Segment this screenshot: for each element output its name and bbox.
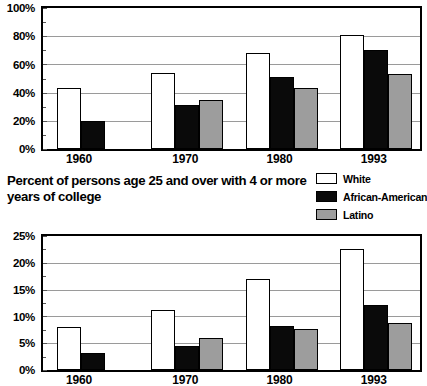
- x-tick-label: 1960: [66, 152, 92, 166]
- bars-bottom: [43, 236, 420, 370]
- y-tick-label: 25%: [13, 230, 35, 242]
- y-tick-label: 40%: [13, 87, 35, 99]
- bar-latino-1980: [294, 88, 318, 149]
- y-tickmark: [43, 149, 47, 150]
- legend-label-white: White: [343, 173, 371, 185]
- x-axis-labels-bottom: 1960197019801993: [41, 373, 422, 386]
- chart-title: Percent of persons age 25 and over with …: [7, 173, 307, 205]
- title-legend-band: Percent of persons age 25 and over with …: [0, 170, 426, 228]
- x-axis-labels-top: 1960197019801993: [41, 152, 422, 170]
- bar-african-american-1993: [364, 305, 388, 370]
- y-tick-label: 80%: [13, 30, 35, 42]
- legend-label-african-american: African-American: [343, 191, 427, 203]
- bar-latino-1980: [294, 329, 318, 370]
- y-tick-label: 0%: [19, 364, 35, 376]
- x-tick-label: 1993: [361, 152, 387, 166]
- y-tick-label: 20%: [13, 257, 35, 269]
- plot-area-top: [41, 6, 422, 151]
- bar-african-american-1980: [270, 77, 294, 149]
- legend-label-latino: Latino: [343, 209, 373, 221]
- y-tick-label: 0%: [19, 143, 35, 155]
- plot-area-bottom: [41, 234, 422, 372]
- bar-latino-1970: [199, 100, 223, 149]
- x-tick-label: 1980: [267, 373, 293, 386]
- y-tick-label: 20%: [13, 115, 35, 127]
- y-tick-label: 60%: [13, 59, 35, 71]
- bar-african-american-1970: [175, 105, 199, 149]
- bar-white-1980: [246, 279, 270, 370]
- legend-item-white: White: [316, 170, 426, 187]
- bar-african-american-1960: [81, 353, 105, 370]
- y-tickmark: [43, 370, 47, 371]
- chart-bottom: 0%5%10%15%20%25% 1960197019801993: [0, 228, 426, 386]
- bar-white-1960: [57, 88, 81, 149]
- legend-item-african-american: African-American: [316, 188, 426, 205]
- y-tick-label: 15%: [13, 284, 35, 296]
- bar-african-american-1980: [270, 326, 294, 370]
- y-axis-labels-bottom: 0%5%10%15%20%25%: [0, 228, 38, 386]
- legend-item-latino: Latino: [316, 206, 426, 223]
- x-tick-label: 1993: [361, 373, 387, 386]
- legend-swatch-black-icon: [316, 191, 337, 202]
- bar-latino-1993: [388, 323, 412, 370]
- bar-white-1960: [57, 327, 81, 370]
- x-tick-label: 1970: [172, 152, 198, 166]
- bar-latino-1993: [388, 74, 412, 149]
- bar-white-1970: [151, 73, 175, 149]
- y-tick-label: 10%: [13, 311, 35, 323]
- y-tick-label: 100%: [7, 2, 35, 14]
- bar-white-1980: [246, 53, 270, 149]
- chart-top: 0%20%40%60%80%100% 1960197019801993: [0, 0, 426, 168]
- bar-white-1993: [340, 35, 364, 149]
- bar-african-american-1993: [364, 50, 388, 149]
- bar-latino-1970: [199, 338, 223, 370]
- bar-african-american-1960: [81, 121, 105, 149]
- y-axis-labels-top: 0%20%40%60%80%100%: [0, 0, 38, 168]
- bar-white-1970: [151, 310, 175, 370]
- bar-african-american-1970: [175, 346, 199, 370]
- x-tick-label: 1960: [66, 373, 92, 386]
- x-tick-label: 1970: [172, 373, 198, 386]
- x-tick-label: 1980: [267, 152, 293, 166]
- legend-swatch-white-icon: [316, 173, 337, 184]
- bars-top: [43, 8, 420, 149]
- legend-swatch-gray-icon: [316, 209, 337, 220]
- y-tick-label: 5%: [19, 337, 35, 349]
- legend: White African-American Latino: [316, 170, 426, 224]
- bar-white-1993: [340, 249, 364, 370]
